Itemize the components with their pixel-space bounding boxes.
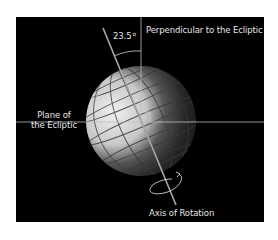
degree-symbol: o <box>133 30 137 37</box>
rotation-arrow-icon <box>150 172 182 194</box>
tilt-angle-value: 23.5 <box>113 31 132 41</box>
ecliptic-plane-label-line2: the Ecliptic <box>26 120 82 130</box>
angle-arc <box>114 51 141 56</box>
perpendicular-label: Perpendicular to the Ecliptic <box>146 25 263 35</box>
ecliptic-plane-label: Plane of the Ecliptic <box>26 110 82 130</box>
tilt-angle-label: 23.5o <box>113 31 136 41</box>
axis-of-rotation-label: Axis of Rotation <box>149 208 214 218</box>
ecliptic-plane-label-line1: Plane of <box>26 110 82 120</box>
